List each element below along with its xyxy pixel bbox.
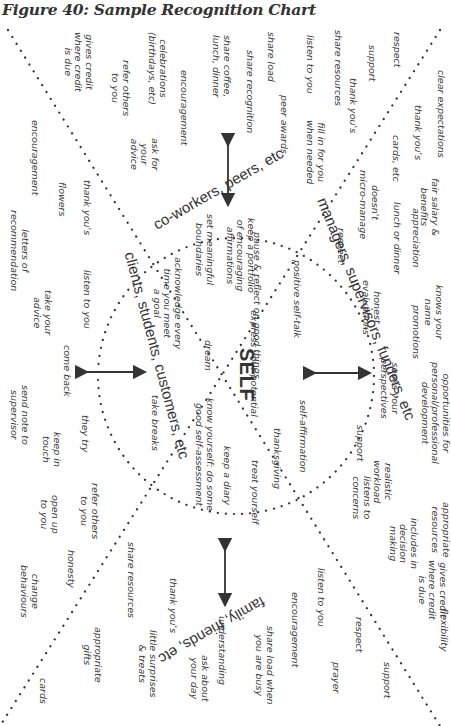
family-item: prayer <box>331 662 342 693</box>
client-item: send note to supervisor <box>9 385 30 445</box>
client-item: letters of recommendation <box>9 210 30 291</box>
manager-item: respect <box>336 228 347 264</box>
coworker-item: celebrations (birthdays, etc) <box>147 32 168 105</box>
self-item: dream <box>203 340 214 371</box>
manager-item: knows your name <box>423 285 444 339</box>
client-item: come back <box>62 345 73 397</box>
client-item: encouragement <box>30 120 41 195</box>
family-item: support <box>382 662 393 698</box>
coworker-item: share load <box>266 32 277 82</box>
manager-item: fair salary & benefits <box>419 178 440 236</box>
coworker-item: listen to you <box>305 35 316 94</box>
manager-item: micro-manage <box>358 170 369 239</box>
client-item: thank you's <box>82 180 93 235</box>
family-item: understanding <box>217 616 228 685</box>
client-item: keep in touch <box>41 432 62 467</box>
client-item: flowers <box>57 182 68 216</box>
manager-item: flexibility <box>439 608 450 652</box>
manager-item: listens to concerns <box>351 476 372 519</box>
coworker-item: share resources <box>333 30 344 106</box>
self-item: treat yourself <box>250 460 261 524</box>
manager-item: clear expectations <box>436 70 447 158</box>
manager-item: doesn't <box>370 185 381 220</box>
client-item: listen to you <box>82 270 93 329</box>
coworker-item: gives credit where credit is due <box>63 32 95 92</box>
self-item: self-affirmation <box>298 400 309 473</box>
coworker-item: support <box>367 45 378 81</box>
client-item: take your advice <box>32 290 53 335</box>
manager-item: opportunities for personal/professional … <box>420 362 451 464</box>
family-item: share resources <box>126 542 137 618</box>
self-item: acknowledge every time you meet a goal <box>152 257 184 349</box>
manager-item: realistic workload <box>372 460 393 503</box>
family-item: thank you's <box>168 578 179 633</box>
coworker-item: refer others to you <box>110 60 131 116</box>
manager-item: appreciation <box>411 208 422 268</box>
family-item: little surprises & treats <box>137 630 158 697</box>
self-item: know yourself: do some good self-assessm… <box>194 398 215 511</box>
self-item: take breaks <box>150 395 161 451</box>
client-item: they try <box>80 415 91 453</box>
coworker-item: respect <box>392 32 403 68</box>
manager-item: promotions <box>411 305 422 359</box>
family-item: change behaviours <box>19 565 40 618</box>
coworker-item: thank you's <box>348 78 359 133</box>
family-item: honesty <box>66 550 77 588</box>
manager-item: cards, etc <box>391 135 402 182</box>
family-item: refer others to you <box>79 483 100 539</box>
self-item: express your potential <box>249 310 260 417</box>
family-item: respect <box>354 617 365 653</box>
manager-item: honest evaluations <box>361 280 382 335</box>
coworker-item: fill in for you when needed <box>305 120 326 184</box>
family-item: ask about your day <box>189 655 210 702</box>
family-item: open up to you <box>39 495 60 534</box>
family-item: encouragement <box>290 592 301 667</box>
manager-item: seeks your perspectives <box>379 358 400 419</box>
coworker-item: share recognition <box>245 50 256 133</box>
self-item: set meaningful boundaries <box>194 214 215 285</box>
family-item: share load when you are busy <box>254 626 275 705</box>
family-item: cards <box>38 678 49 704</box>
manager-item: lunch or dinner <box>392 202 403 274</box>
family-item: listen to you <box>316 568 327 627</box>
coworker-item: share coffee, lunch, dinner <box>211 35 232 97</box>
manager-item: appropriate resources <box>430 502 451 558</box>
self-item: keep a diary <box>222 446 233 505</box>
self-item: positive self-talk <box>292 260 303 338</box>
self-item: thanksgiving <box>272 428 283 489</box>
manager-item: thank you's <box>413 105 424 160</box>
family-item: appropriate gifts <box>82 627 103 683</box>
coworker-item: peer awards <box>279 95 290 154</box>
manager-item: support <box>355 425 366 461</box>
coworker-item: encouragement <box>179 70 190 145</box>
coworker-item: ask for your advice <box>129 138 161 170</box>
manager-item: includes in decision making <box>388 518 420 569</box>
